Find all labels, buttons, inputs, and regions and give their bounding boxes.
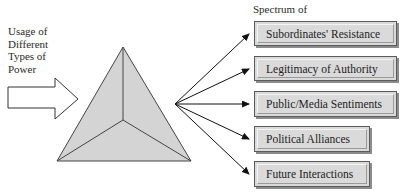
outcome-label: Legitimacy of Authority xyxy=(266,63,378,75)
outcome-label: Subordinates' Resistance xyxy=(266,28,380,40)
arrow-to-political-alliances xyxy=(175,104,249,139)
outcome-box-legitimacy-of-authority: Legitimacy of Authority xyxy=(254,56,397,81)
outcome-label: Public/Media Sentiments xyxy=(266,98,382,110)
block-arrow-right-icon xyxy=(8,78,78,119)
power-spectrum-diagram: Usage of Different Types of Power xyxy=(0,0,405,195)
arrow-to-future-interactions xyxy=(175,104,249,174)
outcome-label: Future Interactions xyxy=(266,168,353,180)
pyramid-triangle-icon xyxy=(57,47,191,161)
arrow-to-subordinates-resistance xyxy=(175,34,249,104)
arrow-to-legitimacy-of-authority xyxy=(175,69,249,104)
spectrum-of-label: Spectrum of xyxy=(253,3,307,15)
outcome-box-political-alliances: Political Alliances xyxy=(254,126,370,152)
outcome-box-future-interactions: Future Interactions xyxy=(254,161,370,187)
outcome-box-public-media-sentiments: Public/Media Sentiments xyxy=(254,91,397,117)
outcome-box-subordinates-resistance: Subordinates' Resistance xyxy=(254,21,397,46)
outcome-label: Political Alliances xyxy=(266,133,350,145)
